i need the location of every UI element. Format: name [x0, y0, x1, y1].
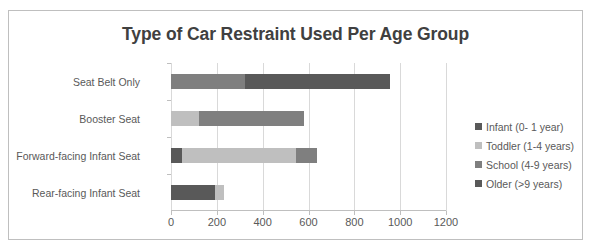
axis-tick [354, 211, 355, 215]
legend-item[interactable]: Older (>9 years) [475, 174, 574, 193]
value-axis-tick-label: 1000 [380, 216, 420, 228]
bar-row[interactable] [171, 148, 446, 163]
chart-title: Type of Car Restraint Used Per Age Group [9, 24, 582, 45]
chart-legend: Infant (0- 1 year)Toddler (1-4 years)Sch… [475, 117, 574, 193]
axis-tick [309, 211, 310, 215]
value-axis-tick-label: 1200 [426, 216, 466, 228]
legend-label: Older (>9 years) [486, 178, 562, 190]
bar-segment[interactable] [182, 148, 295, 163]
axis-tick [400, 211, 401, 215]
legend-label: Toddler (1-4 years) [486, 140, 574, 152]
bar-segment[interactable] [171, 185, 215, 200]
value-axis-tick-label: 200 [197, 216, 237, 228]
legend-item[interactable]: Infant (0- 1 year) [475, 117, 574, 136]
axis-tick [171, 211, 172, 215]
legend-swatch-icon [475, 161, 482, 168]
category-label: Seat Belt Only [73, 76, 140, 88]
chart-frame: Type of Car Restraint Used Per Age Group… [8, 10, 583, 240]
legend-label: Infant (0- 1 year) [486, 121, 564, 133]
gridline [446, 63, 447, 211]
axis-tick [446, 211, 447, 215]
category-axis-tick [167, 174, 171, 175]
bar-row[interactable] [171, 74, 446, 89]
value-axis-tick-label: 600 [289, 216, 329, 228]
legend-item[interactable]: School (4-9 years) [475, 155, 574, 174]
legend-swatch-icon [475, 180, 482, 187]
category-axis-tick [167, 63, 171, 64]
bar-segment[interactable] [215, 185, 224, 200]
bar-segment[interactable] [171, 74, 245, 89]
axis-tick [217, 211, 218, 215]
category-label: Forward-facing Infant Seat [16, 150, 140, 162]
value-axis-tick-label: 0 [151, 216, 191, 228]
bar-segment[interactable] [296, 148, 317, 163]
value-axis-tick-label: 800 [334, 216, 374, 228]
bar-segment[interactable] [245, 74, 389, 89]
category-label: Booster Seat [79, 113, 140, 125]
category-axis-tick [167, 100, 171, 101]
category-axis-tick [167, 137, 171, 138]
value-axis-tick-label: 400 [243, 216, 283, 228]
bar-segment[interactable] [171, 111, 199, 126]
legend-swatch-icon [475, 142, 482, 149]
plot-area [171, 63, 446, 211]
legend-swatch-icon [475, 123, 482, 130]
legend-item[interactable]: Toddler (1-4 years) [475, 136, 574, 155]
bar-row[interactable] [171, 185, 446, 200]
category-label: Rear-facing Infant Seat [32, 187, 140, 199]
bar-segment[interactable] [199, 111, 304, 126]
legend-label: School (4-9 years) [486, 159, 572, 171]
bar-row[interactable] [171, 111, 446, 126]
bar-segment[interactable] [171, 148, 182, 163]
axis-tick [263, 211, 264, 215]
